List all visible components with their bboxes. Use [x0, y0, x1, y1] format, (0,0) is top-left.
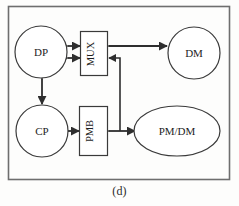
figure-caption: (d): [0, 184, 239, 199]
node-mux-label: MUX: [85, 41, 96, 66]
node-pmb-label: PMB: [84, 120, 95, 142]
connector-mux-pm-bus: [109, 58, 120, 131]
node-mux[interactable]: MUX: [81, 32, 108, 76]
node-pmdm[interactable]: PM/DM: [134, 106, 220, 156]
node-pmb[interactable]: PMB: [80, 107, 108, 156]
node-pmdm-label: PM/DM: [159, 125, 196, 137]
node-dp[interactable]: DP: [15, 26, 67, 78]
node-dp-label: DP: [34, 46, 48, 58]
node-cp-label: CP: [35, 125, 48, 137]
node-cp[interactable]: CP: [16, 105, 68, 157]
block-diagram: DP MUX DM CP PMB PM/DM: [0, 0, 239, 206]
node-dm[interactable]: DM: [168, 27, 220, 79]
node-dm-label: DM: [185, 47, 203, 59]
figure-container: DP MUX DM CP PMB PM/DM (d): [0, 0, 239, 206]
